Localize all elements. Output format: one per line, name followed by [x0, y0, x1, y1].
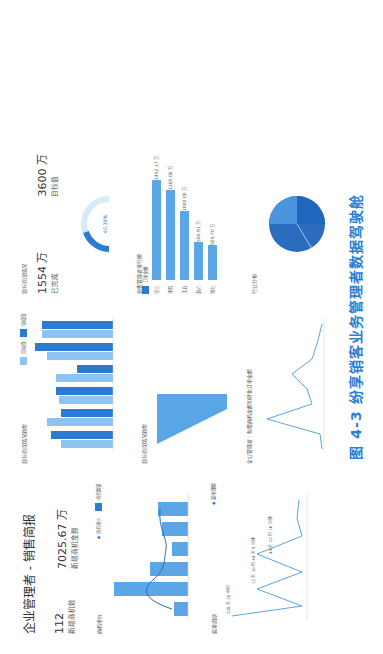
legend: ◆ 商机单价 商机数量 — [95, 484, 102, 539]
kpi-new-opportunity-amount: 7025.67 万 新增商机金额 — [53, 509, 79, 569]
funnel-svg — [147, 314, 237, 464]
opportunity-amount-chart: 企业管理者 - 新增商机金额和转化订单金额 — [245, 314, 335, 464]
win-cycle-chart: 赢单周期 ◆ 赢单周期 228 天 20 小时 12 天 10 时 44 天 9… — [210, 484, 330, 634]
svg-text:12 天 10 时 44 天 9 分钟: 12 天 10 时 44 天 9 分钟 — [250, 537, 256, 584]
opportunity-amount-svg — [252, 314, 332, 464]
target-trend-svg — [27, 314, 122, 464]
header-panel: 企业管理者 - 销售简报 112 新增商机数 7025.67 万 新增商机金额 — [20, 484, 79, 634]
page-title: 企业管理者 - 销售简报 — [20, 484, 37, 634]
pie-svg — [257, 154, 337, 294]
svg-text:40.39%: 40.39% — [102, 214, 108, 233]
combo-chart-svg — [102, 484, 197, 634]
target-trend-chart: 目标完成情况趋势 目标值 完成值 — [20, 314, 130, 464]
sales-ranking-chart: 销售管理者排行榜 订单金额 张三1452.17 万 李四1300.00 万 王五… — [135, 154, 245, 294]
opportunity-price-chart: 商机单价 ◆ 商机单价 商机数量 — [95, 484, 205, 634]
svg-text:228 天 20 小时: 228 天 20 小时 — [225, 585, 231, 614]
rotated-dashboard-figure: 企业管理者 - 销售简报 112 新增商机数 7025.67 万 新增商机金额 … — [0, 0, 383, 654]
gauge-svg: 40.39% — [59, 154, 119, 294]
figure-caption: 图 4-3 纷享销客业务管理者数据驾驶舱 — [345, 0, 365, 654]
target-completion-gauge: 目标完成情况 1554 万已完成 3600 万目标值 40.39% — [20, 154, 130, 294]
industry-pie-chart: 行业分布 — [250, 154, 340, 294]
ranking-rows: 张三1452.17 万 李四1300.00 万 王五1000.00 万 赵六55… — [149, 154, 219, 294]
kpi-new-opportunities: 112 新增商机数 — [53, 599, 79, 634]
svg-text:44 天 22 时 16 分钟: 44 天 22 时 16 分钟 — [267, 516, 273, 554]
win-cycle-svg: 228 天 20 小时 12 天 10 时 44 天 9 分钟 44 天 22 … — [217, 484, 322, 634]
sales-funnel: 目标完成情况趋势 — [140, 314, 240, 464]
